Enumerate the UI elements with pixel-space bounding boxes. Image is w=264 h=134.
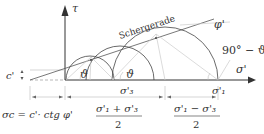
center-denominator: 2 bbox=[115, 119, 121, 130]
mohr-coulomb-diagram: τ σ' Schergerade φ' 90° − ϑ ϑ ϑ c' σ'₃ σ… bbox=[0, 0, 264, 134]
angle-arc bbox=[120, 72, 123, 80]
tangent-point bbox=[155, 37, 157, 39]
radius-denominator: 2 bbox=[193, 119, 199, 130]
dim-arrow-icon bbox=[59, 96, 63, 99]
cohesion-label: c' bbox=[6, 70, 14, 81]
tau-label: τ bbox=[72, 2, 79, 15]
sigma-label: σ' bbox=[236, 63, 247, 76]
center-numerator: σ'₁ + σ'₃ bbox=[96, 103, 138, 114]
cohesion-arrow-icon bbox=[21, 70, 24, 73]
radius-numerator: σ'₁ − σ'₃ bbox=[174, 103, 216, 114]
dim-arrow-icon bbox=[32, 96, 36, 99]
sigma1-label: σ'₁ bbox=[212, 85, 226, 96]
sigma3-label: σ'₃ bbox=[120, 85, 134, 96]
cohesion-arrow-icon bbox=[21, 77, 24, 80]
sigma-c-formula: σc = c'· ctg φ' bbox=[2, 109, 73, 120]
construction-line bbox=[156, 34, 165, 80]
sigma-axis-arrow-icon bbox=[248, 77, 256, 84]
construction-line bbox=[156, 34, 218, 80]
tau-axis-arrow-icon bbox=[62, 5, 69, 16]
construction-line bbox=[112, 34, 156, 80]
angle-label-right: 90° − ϑ bbox=[222, 44, 264, 57]
dim-arrow-icon bbox=[167, 96, 171, 99]
tangent-point bbox=[90, 59, 92, 61]
dim-arrow-icon bbox=[159, 96, 163, 99]
theta-label-2: ϑ bbox=[126, 68, 134, 81]
theta-label-1: ϑ bbox=[80, 68, 88, 81]
construction-line bbox=[91, 57, 114, 80]
dim-arrow-icon bbox=[67, 96, 71, 99]
construction-line bbox=[218, 60, 230, 80]
phi-label: φ' bbox=[214, 18, 225, 31]
